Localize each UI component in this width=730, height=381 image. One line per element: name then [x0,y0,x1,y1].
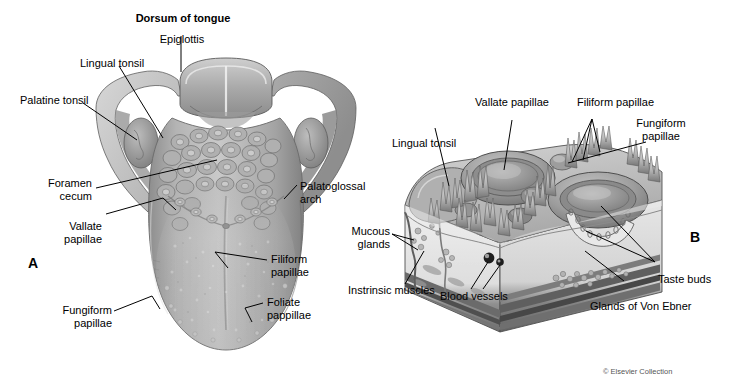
label-fungiform-papillae-a: Fungiform papillae [38,304,112,329]
label-vallate-papillae-a: Vallate papillae [30,220,102,245]
label-fungiform-papillae-b: Fungiform papillae [628,117,694,142]
label-palatoglossal-arch: Palatoglossal arch [300,180,365,205]
label-vallate-papillae-b: Vallate papillae [466,96,558,109]
label-foramen-cecum: Foramen cecum [20,177,92,202]
label-filiform-papillae-a: Filiform papillae [271,253,309,278]
label-instrinsic-muscles: Instrinsic muscles [348,284,435,297]
label-lingual-tonsil-b: Lingual tonsil [392,137,456,150]
label-blood-vessels: Blood vessels [440,290,508,303]
label-glands-of-von-ebner: Glands of Von Ebner [590,300,692,313]
label-foliate-pappillae: Foliate pappillae [267,296,311,321]
panel-label-a: A [28,255,38,271]
label-palatine-tonsil: Palatine tonsil [20,94,89,107]
panel-label-b: B [690,229,700,245]
label-dorsum-of-tongue: Dorsum of tongue [128,12,238,25]
figure-canvas: Dorsum of tongue Epiglottis Lingual tons… [0,0,730,381]
label-filiform-papillae-b: Filiform papillae [577,96,654,109]
label-lingual-tonsil-a: Lingual tonsil [80,57,144,70]
label-mucous-glands: Mucous glands [336,225,390,250]
label-taste-buds: Taste buds [658,273,711,286]
copyright-credit: © Elsevier Collection [603,367,672,376]
label-epiglottis: Epiglottis [147,33,217,46]
